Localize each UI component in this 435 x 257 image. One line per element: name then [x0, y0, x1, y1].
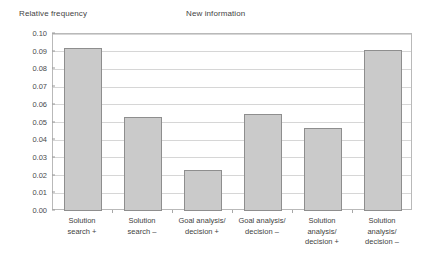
- x-axis-tick-label: Solution search +: [52, 216, 112, 237]
- x-axis-tick-label: Goal analysis/ decision –: [232, 216, 292, 237]
- bar: [184, 170, 222, 211]
- chart-title: New information: [186, 9, 245, 18]
- bar: [364, 50, 402, 211]
- x-axis-tick-label: Solution search –: [112, 216, 172, 237]
- plot-area: [52, 33, 412, 210]
- y-axis-tickmark: [52, 139, 55, 140]
- x-axis-tick-label: Goal analysis/ decision +: [172, 216, 232, 237]
- y-axis-title: Relative frequency: [19, 9, 87, 18]
- y-axis-tick-label: 0.01: [21, 188, 47, 197]
- x-axis-tickmark: [292, 210, 293, 213]
- x-axis-tickmark: [352, 210, 353, 213]
- y-axis-tickmark: [52, 210, 55, 211]
- y-axis-tickmark: [52, 50, 55, 51]
- y-axis-tickmark: [52, 192, 55, 193]
- y-axis-tick-label: 0.06: [21, 99, 47, 108]
- y-axis-tick-label: 0.09: [21, 46, 47, 55]
- x-axis-tickmark: [172, 210, 173, 213]
- x-axis-tickmark: [112, 210, 113, 213]
- y-axis-tickmark: [52, 86, 55, 87]
- y-axis-tick-label: 0.10: [21, 29, 47, 38]
- y-axis-tick-label: 0.04: [21, 135, 47, 144]
- y-axis-tick-labels: 0.000.010.020.030.040.050.060.070.080.09…: [19, 33, 47, 210]
- x-axis-tickmark: [232, 210, 233, 213]
- bar-series: [53, 34, 413, 211]
- y-axis-tick-label: 0.03: [21, 152, 47, 161]
- y-axis-tickmark: [52, 121, 55, 122]
- y-axis-tickmark: [52, 103, 55, 104]
- x-axis-tick-label: Solution analysis/ decision –: [352, 216, 412, 248]
- y-axis-tickmark: [52, 33, 55, 34]
- y-axis-tickmark: [52, 156, 55, 157]
- y-axis-tick-label: 0.05: [21, 117, 47, 126]
- x-axis-tick-label: Solution analysis/ decision +: [292, 216, 352, 248]
- y-axis-tick-label: 0.00: [21, 206, 47, 215]
- y-axis-tick-label: 0.02: [21, 170, 47, 179]
- bar: [244, 114, 282, 211]
- x-axis-tick-labels: Solution search +Solution search –Goal a…: [52, 216, 412, 256]
- y-axis-tickmark: [52, 68, 55, 69]
- bar: [64, 48, 102, 211]
- y-axis-tickmark: [52, 174, 55, 175]
- y-axis-tick-label: 0.08: [21, 64, 47, 73]
- bar-chart: Relative frequency New information 0.000…: [0, 0, 435, 257]
- bar: [304, 128, 342, 211]
- bar: [124, 117, 162, 211]
- y-axis-tick-label: 0.07: [21, 82, 47, 91]
